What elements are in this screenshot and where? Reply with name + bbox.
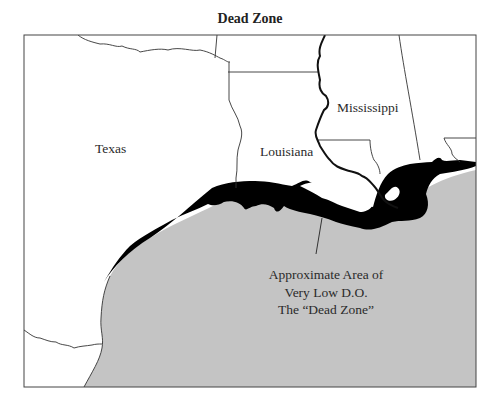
annotation-line-2: Very Low D.O. [284,285,367,300]
label-texas: Texas [95,141,126,156]
annotation-line-3: The “Dead Zone” [278,302,374,317]
annotation-line-1: Approximate Area of [269,267,384,282]
dead-zone-map: Texas Louisiana Mississippi Approximate … [0,0,500,407]
label-louisiana: Louisiana [260,144,313,159]
label-mississippi: Mississippi [337,100,399,115]
